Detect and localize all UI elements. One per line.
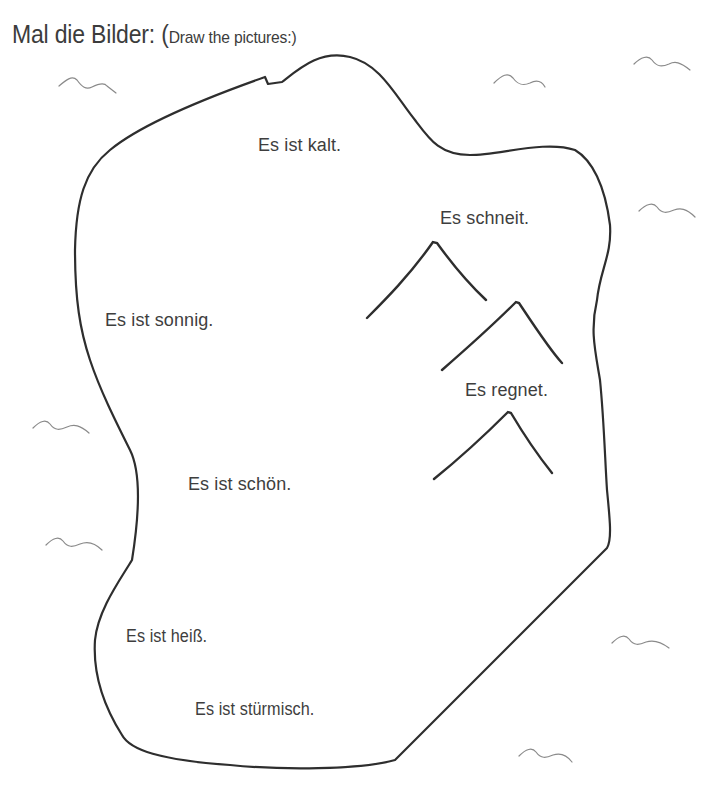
bird-icon — [634, 57, 690, 70]
phrase-kalt: Es ist kalt. — [258, 135, 341, 156]
drawing-canvas[interactable] — [0, 0, 716, 794]
phrase-sonnig: Es ist sonnig. — [105, 310, 213, 331]
mountain-icon-1 — [367, 242, 486, 318]
bird-icon — [33, 421, 89, 433]
bird-icon — [494, 75, 545, 87]
bird-icon — [612, 636, 669, 648]
bird-icon — [59, 78, 116, 93]
phrase-schoen: Es ist schön. — [188, 474, 291, 495]
bird-icon — [519, 749, 572, 762]
phrase-stuermisch: Es ist stürmisch. — [195, 699, 314, 720]
bird-icon — [46, 538, 102, 550]
phrase-schneit: Es schneit. — [440, 208, 529, 229]
mountain-icon-3 — [434, 412, 552, 479]
phrase-heiss: Es ist heiß. — [126, 626, 207, 647]
mountain-icon-2 — [442, 302, 562, 370]
island-outline — [75, 55, 610, 768]
phrase-regnet: Es regnet. — [465, 380, 548, 401]
bird-icon — [639, 204, 695, 217]
